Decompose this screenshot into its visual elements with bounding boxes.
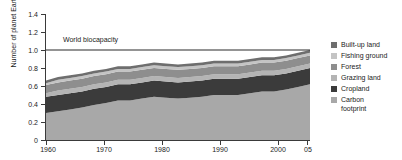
x-axis-label-1970: 1970	[96, 146, 112, 153]
x-axis-tick	[278, 141, 279, 145]
legend-label: Fishing ground	[341, 52, 387, 61]
legend-item-cropland[interactable]: Cropland	[331, 85, 402, 94]
x-axis-tick	[104, 141, 105, 145]
x-axis-tick	[162, 141, 163, 145]
y-axis-label-0: 0	[14, 137, 38, 144]
legend-swatch-icon	[331, 75, 337, 81]
legend-item-fishing-ground[interactable]: Fishing ground	[331, 52, 402, 61]
legend-item-built-up-land[interactable]: Built-up land	[331, 41, 402, 50]
chart-container: Number of planet Earths 1.4 1.2 1.0 0.8 …	[0, 0, 402, 160]
legend-swatch-icon	[331, 64, 337, 70]
x-axis-label-05: 05	[304, 146, 312, 153]
chart-legend: Built-up land Fishing ground Forest Graz…	[331, 41, 402, 116]
legend-swatch-icon	[331, 53, 337, 59]
world-biocapacity-label: World biocapacity	[63, 36, 118, 43]
y-axis-label-0-2: 0.2	[14, 119, 38, 126]
x-axis-label-1990: 1990	[212, 146, 228, 153]
legend-label: Built-up land	[341, 41, 380, 50]
y-axis-label-0-4: 0.4	[14, 101, 38, 108]
legend-label: Forest	[341, 63, 361, 72]
legend-label: Cropland	[341, 85, 369, 94]
stacked-area-svg	[46, 14, 310, 140]
y-axis-label-0-8: 0.8	[14, 65, 38, 72]
y-axis-label-0-6: 0.6	[14, 83, 38, 90]
legend-swatch-icon	[331, 42, 337, 48]
legend-swatch-icon	[331, 97, 337, 103]
legend-item-carbon-footprint[interactable]: Carbon footprint	[331, 96, 402, 113]
x-axis-tick	[307, 141, 308, 145]
legend-item-grazing-land[interactable]: Grazing land	[331, 74, 402, 83]
x-axis-label-2000: 2000	[270, 146, 286, 153]
legend-label: Carbon footprint	[341, 96, 387, 113]
y-axis-label-1-2: 1.2	[14, 29, 38, 36]
x-axis-label-1980: 1980	[154, 146, 170, 153]
legend-swatch-icon	[331, 86, 337, 92]
y-axis-label-1-0: 1.0	[14, 47, 38, 54]
y-axis-label-1-4: 1.4	[14, 11, 38, 18]
x-axis-tick	[220, 141, 221, 145]
x-axis-label-1960: 1960	[40, 146, 56, 153]
legend-item-forest[interactable]: Forest	[331, 63, 402, 72]
x-axis-line	[45, 140, 310, 141]
legend-label: Grazing land	[341, 74, 381, 83]
plot-area	[46, 14, 310, 140]
x-axis-tick	[46, 141, 47, 145]
